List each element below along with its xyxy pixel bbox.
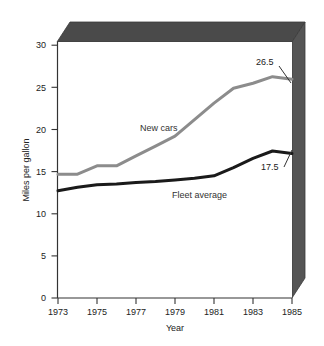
y-tick-label-15: 15	[36, 167, 46, 177]
x-tick-label-1973: 1973	[48, 307, 68, 317]
value-label-new-cars: 26.5	[256, 57, 274, 67]
value-label-fleet-average: 17.5	[261, 162, 279, 172]
y-tick-label-0: 0	[41, 293, 46, 303]
y-tick-label-30: 30	[36, 40, 46, 50]
chart-svg: 30 25 20 15 10 5 0 1973 1975 1977 1979 1…	[0, 0, 324, 346]
x-tick-label-1975: 1975	[87, 307, 107, 317]
x-tick-label-1977: 1977	[126, 307, 146, 317]
x-tick-label-1983: 1983	[243, 307, 263, 317]
series-label-fleet-average: Fleet average	[172, 190, 227, 200]
x-tick-label-1981: 1981	[204, 307, 224, 317]
y-tick-label-25: 25	[36, 83, 46, 93]
mpg-line-chart: 30 25 20 15 10 5 0 1973 1975 1977 1979 1…	[0, 0, 324, 346]
y-axis-ticks	[52, 45, 58, 298]
x-axis-title: Year	[166, 323, 184, 333]
y-tick-label-5: 5	[41, 251, 46, 261]
plot-area-background	[58, 42, 293, 298]
frame-right-face	[292, 22, 305, 298]
y-tick-label-10: 10	[36, 209, 46, 219]
series-label-new-cars: New cars	[140, 123, 178, 133]
frame-top-face	[57, 22, 305, 42]
x-tick-label-1979: 1979	[165, 307, 185, 317]
y-axis-title: Miles per gallon	[21, 138, 31, 201]
x-tick-label-1985: 1985	[282, 307, 302, 317]
x-axis-ticks	[58, 298, 292, 304]
y-tick-label-20: 20	[36, 125, 46, 135]
